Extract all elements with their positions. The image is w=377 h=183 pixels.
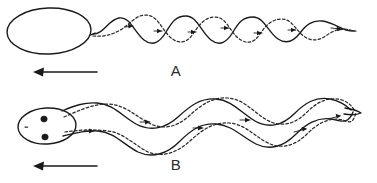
wave-arrow-a6 xyxy=(288,28,296,33)
panel-a-motion-arrow xyxy=(33,68,97,77)
wave-arrow-a5 xyxy=(254,31,262,36)
panel-b-motion-arrow xyxy=(33,162,97,171)
wave-arrow-a2 xyxy=(154,29,162,34)
wave-arrow-b2 xyxy=(140,120,150,125)
panel-label-b: B xyxy=(171,156,182,173)
worm-body-solid-ventral xyxy=(63,112,353,155)
wave-arrow-a4 xyxy=(221,26,229,31)
wave-arrow-b1 xyxy=(84,129,94,134)
wave-arrow-b6 xyxy=(328,114,341,119)
worm-eye-spot-upper xyxy=(41,116,47,122)
worm-eye-spot-lower xyxy=(42,134,48,140)
locomotion-diagram: A xyxy=(0,0,377,183)
panel-a-group: A xyxy=(6,7,356,79)
wave-arrow-b4 xyxy=(240,118,250,123)
sperm-head-oval xyxy=(6,7,92,56)
wave-arrow-a3 xyxy=(188,30,196,35)
figure-canvas: A xyxy=(0,0,377,183)
panel-b-group: B xyxy=(17,98,361,173)
panel-label-a: A xyxy=(171,62,182,79)
